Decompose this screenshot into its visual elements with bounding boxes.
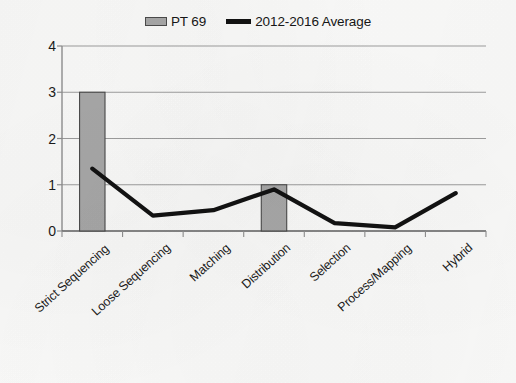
x-axis-labels: Strict SequencingLoose SequencingMatchin… bbox=[0, 0, 516, 383]
plot-area: 01234 Strict SequencingLoose SequencingM… bbox=[0, 0, 516, 383]
legend-bar-swatch-icon bbox=[145, 17, 167, 26]
x-axis-tick-label: Hybrid bbox=[440, 241, 475, 275]
x-axis-tick-label: Matching bbox=[187, 241, 233, 284]
legend-entry-pt69: PT 69 bbox=[145, 14, 206, 29]
legend-label-average: 2012-2016 Average bbox=[255, 14, 371, 29]
chart-legend: PT 69 2012-2016 Average bbox=[0, 14, 516, 29]
x-axis-tick-label: Selection bbox=[307, 241, 353, 285]
legend-line-swatch-icon bbox=[226, 19, 251, 24]
chart-container: PT 69 2012-2016 Average 01234 Strict Seq… bbox=[0, 0, 516, 383]
legend-label-pt69: PT 69 bbox=[171, 14, 206, 29]
legend-entry-average: 2012-2016 Average bbox=[226, 14, 371, 29]
x-axis-tick-label: Distribution bbox=[239, 241, 293, 292]
